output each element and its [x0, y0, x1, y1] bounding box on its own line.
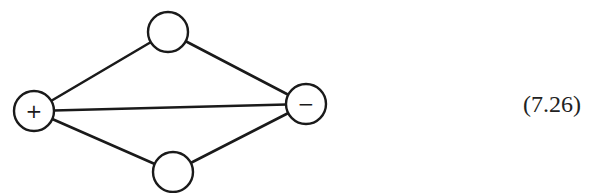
node-circle: [148, 12, 188, 52]
graph-diagram: +−: [0, 0, 597, 193]
edge-bottom-minus: [173, 104, 306, 172]
nodes: +−: [14, 12, 326, 192]
equation-number: (7.26): [523, 90, 581, 118]
edge-top-minus: [168, 32, 306, 104]
node-plus: +: [14, 91, 54, 131]
node-label: +: [26, 99, 43, 123]
node-label: −: [298, 92, 315, 116]
node-minus: −: [286, 84, 326, 124]
edge-plus-bottom: [34, 111, 173, 172]
edge-plus-top: [34, 32, 168, 111]
node-bottom: [153, 152, 193, 192]
node-top: [148, 12, 188, 52]
edge-plus-minus: [34, 104, 306, 111]
node-circle: [153, 152, 193, 192]
